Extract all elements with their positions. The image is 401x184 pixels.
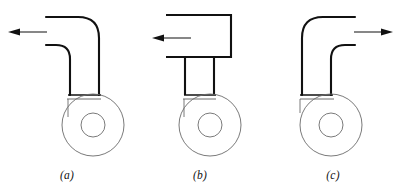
panel-caption-c: (c) (266, 168, 400, 182)
diagram-c-drawing (266, 0, 400, 184)
flow-arrow-c-icon (354, 29, 393, 36)
wheel-inner-circle-b (198, 113, 222, 137)
figure-panel-c (266, 0, 400, 184)
pipe-outer-wall-c (302, 17, 355, 95)
figure-panel-a (0, 0, 134, 184)
pipe-outer-wall-a (46, 17, 99, 95)
wheel-outer-circle-b (179, 94, 241, 156)
pipe-inner-wall-a (46, 45, 70, 95)
flow-arrow-b-icon (152, 35, 191, 42)
panel-caption-a: (a) (0, 168, 134, 182)
diagram-a-drawing (0, 0, 134, 184)
flow-arrow-a-icon (8, 29, 47, 36)
box-elbow-walls-b (166, 15, 231, 57)
figure-container: (a) (b) (c) (0, 0, 401, 184)
wheel-inner-circle-a (81, 113, 105, 137)
panel-caption-b: (b) (133, 168, 267, 182)
wheel-outer-circle-c (300, 94, 362, 156)
diagram-b-drawing (133, 0, 267, 184)
wheel-outer-circle-a (62, 94, 124, 156)
pipe-inner-wall-c (331, 45, 355, 95)
figure-panel-b (133, 0, 267, 184)
wheel-inner-circle-c (319, 113, 343, 137)
